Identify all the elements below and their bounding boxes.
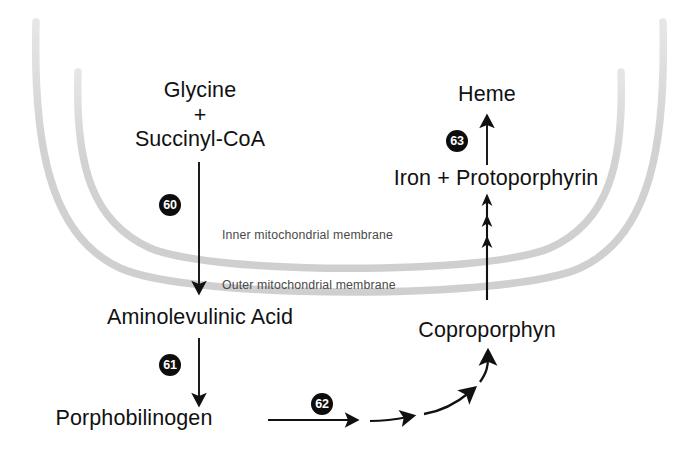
metabolite-aminolevulinic-acid: Aminolevulinic Acid [0,305,400,329]
metabolite-iron-protoporphyrin: Iron + Protoporphyrin [387,166,605,190]
heme-biosynthesis-diagram: Glycine + Succinyl-CoA Aminolevulinic Ac… [0,0,696,455]
metabolite-glycine-succinyl-coa: Glycine + Succinyl-CoA [0,78,400,152]
arrow-porphobilinogen-to-coproporphyn [268,357,488,421]
step-badge-63[interactable]: 63 [446,130,468,152]
plus-sign-label: + [0,103,400,128]
step-badge-62[interactable]: 62 [311,393,333,415]
metabolite-porphobilinogen: Porphobilinogen [0,406,268,430]
step-badge-60[interactable]: 60 [159,194,181,216]
metabolite-coproporphyn: Coproporphyn [387,318,587,342]
arrow-coproporphyn-to-iron-protoporphyrin [482,194,493,301]
step-badge-61[interactable]: 61 [159,354,181,376]
outer-membrane-label: Outer mitochondrial membrane [222,278,396,292]
inner-membrane-label: Inner mitochondrial membrane [222,228,393,242]
metabolite-heme: Heme [387,82,587,106]
metabolite-succinyl-coa-label: Succinyl-CoA [0,127,400,152]
metabolite-glycine-label: Glycine [0,78,400,103]
